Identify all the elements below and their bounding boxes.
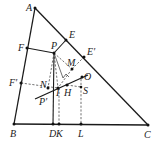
label-m: M xyxy=(66,57,76,68)
label-k: K xyxy=(55,128,64,139)
label-b: B xyxy=(10,128,16,139)
label-c: C xyxy=(144,129,151,140)
point-f xyxy=(26,47,29,50)
segment-pd xyxy=(53,53,54,124)
right-angle-mark xyxy=(63,74,69,78)
point-d xyxy=(52,123,55,126)
label-p: P xyxy=(50,40,57,51)
point-e2 xyxy=(83,56,86,59)
point-s xyxy=(80,86,83,89)
point-p xyxy=(53,52,56,55)
label-l: L xyxy=(77,128,84,139)
label-h: H xyxy=(63,87,72,98)
point-c xyxy=(147,124,150,127)
label-n: N xyxy=(39,79,48,90)
point-a xyxy=(34,7,37,10)
side-ab xyxy=(14,8,35,124)
side-ca xyxy=(35,8,148,125)
point-n xyxy=(47,87,50,90)
label-f2: F′ xyxy=(8,77,18,88)
label-a: A xyxy=(25,2,33,13)
point-b xyxy=(13,123,16,126)
label-i: I xyxy=(55,87,60,98)
label-p2: P′ xyxy=(38,96,48,107)
label-f: F xyxy=(17,42,25,53)
label-s: S xyxy=(83,85,88,96)
point-k xyxy=(58,123,61,126)
label-e: E xyxy=(68,29,75,40)
label-e2: E′ xyxy=(86,46,96,57)
label-o: O xyxy=(84,71,91,82)
point-f2 xyxy=(20,82,23,85)
segment-fp xyxy=(27,48,54,53)
geometry-figure: A B C D K L E E′ F F′ P P′ M N I H O S xyxy=(0,0,161,155)
point-e xyxy=(65,39,68,42)
point-l xyxy=(80,123,83,126)
